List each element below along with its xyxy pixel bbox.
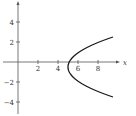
y-axis: [17, 1, 20, 114]
x-tick-label: 4: [56, 65, 61, 73]
x-axis-label: x: [123, 59, 127, 67]
y-ticks: 42−2−4: [4, 19, 20, 107]
y-tick-label: 2: [10, 39, 14, 47]
x-tick-label: 8: [96, 65, 100, 73]
x-tick-label: 2: [36, 65, 40, 73]
parabola-curve: [68, 37, 113, 97]
y-tick-label: −2: [4, 79, 14, 87]
x-axis: x: [3, 59, 127, 67]
x-axis-arrow-icon: [116, 61, 120, 64]
y-axis-arrow-icon: [17, 1, 20, 5]
x-tick-label: 6: [76, 65, 81, 73]
y-tick-label: −4: [4, 99, 15, 107]
parabola-chart: x 2468 42−2−4: [0, 0, 136, 116]
y-tick-label: 4: [10, 19, 15, 27]
